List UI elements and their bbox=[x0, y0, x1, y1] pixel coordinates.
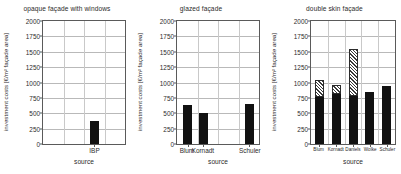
bar-segment-base bbox=[332, 94, 341, 144]
bar bbox=[349, 49, 358, 144]
y-tick-label: 1500 bbox=[160, 48, 174, 55]
y-tick-label: 1500 bbox=[294, 48, 308, 55]
y-tick-label: 250 bbox=[29, 125, 40, 132]
y-axis-label: investment costs [€/m² façade area] bbox=[136, 22, 146, 142]
y-axis-label: investment costs [€/m² façade area] bbox=[2, 22, 12, 142]
y-tick-label: 500 bbox=[163, 110, 174, 117]
y-tick-label: 1000 bbox=[294, 79, 308, 86]
y-tick-label: 0 bbox=[36, 141, 40, 148]
bar-segment-range bbox=[315, 80, 324, 96]
bar-segment-base bbox=[382, 86, 391, 144]
y-tick-label: 1500 bbox=[26, 48, 40, 55]
bar-segment-base bbox=[199, 113, 208, 144]
figure-three-panel-bar-charts: opaque façade with windows investment co… bbox=[0, 0, 401, 174]
y-tick-label: 1750 bbox=[294, 33, 308, 40]
y-axis-label: investment costs [€/m² façade area] bbox=[270, 22, 280, 142]
x-tick-labels: BlumKornadtSchuler bbox=[176, 147, 260, 157]
bars-group bbox=[311, 21, 395, 144]
bar bbox=[332, 85, 341, 144]
y-tick-label: 750 bbox=[163, 94, 174, 101]
bar bbox=[199, 113, 208, 144]
y-axis-label-text: investment costs [€/m² façade area] bbox=[2, 33, 9, 131]
x-tick-label: Schuler bbox=[380, 147, 396, 152]
y-tick-label: 250 bbox=[297, 125, 308, 132]
y-tick-label: 2000 bbox=[294, 18, 308, 25]
y-tick-label: 0 bbox=[170, 141, 174, 148]
x-axis-title: source bbox=[310, 158, 396, 165]
y-axis-label-text: investment costs [€/m² façade area] bbox=[136, 33, 143, 131]
bars-group bbox=[43, 21, 125, 144]
panel-title: double skin façade bbox=[268, 5, 401, 12]
bar bbox=[183, 105, 192, 144]
y-tick-label: 1250 bbox=[160, 64, 174, 71]
x-tick-labels: IBP bbox=[42, 147, 126, 157]
x-tick-label: IBP bbox=[89, 147, 99, 154]
bar-segment-range bbox=[349, 49, 358, 96]
y-tick-label: 1750 bbox=[160, 33, 174, 40]
x-axis-title: source bbox=[42, 158, 126, 165]
x-tick-label: Schuler bbox=[239, 147, 261, 154]
panel-title: glazed façade bbox=[134, 5, 268, 12]
x-tick-label: Daniels bbox=[345, 147, 360, 152]
y-tick-label: 1250 bbox=[294, 64, 308, 71]
bar-segment-base bbox=[183, 105, 192, 144]
y-tick-label: 500 bbox=[297, 110, 308, 117]
plot-area: 025050075010001250150017502000 bbox=[176, 20, 260, 145]
y-tick-label: 2000 bbox=[26, 18, 40, 25]
y-tick-label: 750 bbox=[29, 94, 40, 101]
y-tick-label: 500 bbox=[29, 110, 40, 117]
x-tick-label: Kornadt bbox=[328, 147, 344, 152]
bar bbox=[245, 104, 254, 144]
x-tick-label: Blum bbox=[313, 147, 323, 152]
bar-segment-base bbox=[349, 96, 358, 144]
y-tick-label: 1000 bbox=[26, 79, 40, 86]
bar-segment-range bbox=[332, 85, 341, 94]
y-axis-label-text: investment costs [€/m² façade area] bbox=[270, 33, 277, 131]
panel-title: opaque façade with windows bbox=[0, 5, 134, 12]
x-tick-label: Wolke bbox=[364, 147, 377, 152]
bar bbox=[90, 121, 99, 144]
y-tick-label: 250 bbox=[163, 125, 174, 132]
x-tick-label: Kornadt bbox=[192, 147, 214, 154]
y-tick-label: 1000 bbox=[160, 79, 174, 86]
bar-segment-base bbox=[245, 104, 254, 144]
y-tick-label: 1250 bbox=[26, 64, 40, 71]
x-axis-title: source bbox=[176, 158, 260, 165]
bar bbox=[365, 92, 374, 144]
y-tick-label: 0 bbox=[304, 141, 308, 148]
y-tick-label: 1750 bbox=[26, 33, 40, 40]
bar-segment-base bbox=[315, 97, 324, 144]
bars-group bbox=[177, 21, 259, 144]
bar-segment-base bbox=[365, 92, 374, 144]
panel-double-skin-facade: double skin façade investment costs [€/m… bbox=[268, 0, 401, 174]
plot-area: 025050075010001250150017502000 bbox=[42, 20, 126, 145]
panel-glazed-facade: glazed façade investment costs [€/m² faç… bbox=[134, 0, 268, 174]
panel-opaque-facade-with-windows: opaque façade with windows investment co… bbox=[0, 0, 134, 174]
bar bbox=[315, 80, 324, 144]
bar-segment-base bbox=[90, 121, 99, 144]
bar bbox=[382, 86, 391, 144]
y-tick-label: 2000 bbox=[160, 18, 174, 25]
x-tick-labels: BlumKornadtDanielsWolkeSchuler bbox=[310, 147, 396, 157]
y-tick-label: 750 bbox=[297, 94, 308, 101]
plot-area: 025050075010001250150017502000 bbox=[310, 20, 396, 145]
